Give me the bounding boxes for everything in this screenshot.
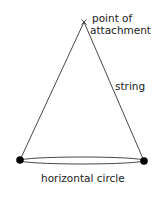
- string-left: [20, 22, 84, 160]
- label-string: string: [115, 80, 145, 92]
- conical-pendulum-diagram: point of attachment string horizontal ci…: [0, 0, 157, 199]
- label-horizontal-circle: horizontal circle: [41, 172, 125, 184]
- label-attachment: attachment: [90, 24, 151, 36]
- mass-right: [140, 157, 148, 165]
- horizontal-circle: [20, 157, 144, 164]
- attachment-point-icon: [82, 20, 87, 25]
- mass-left: [16, 156, 24, 164]
- label-point-of: point of: [92, 12, 133, 24]
